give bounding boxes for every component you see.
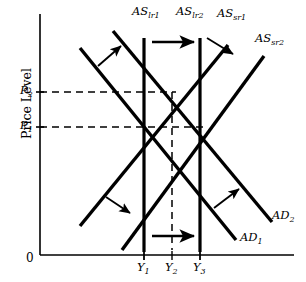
curve-ad1[interactable] — [80, 48, 236, 240]
shift-arrow-upper-left — [98, 46, 121, 66]
horizontal-shift-arrows — [152, 42, 194, 236]
x-tick-label-y1: Y1 — [137, 262, 150, 274]
origin-label: 0 — [26, 252, 34, 264]
label-as-sr1: ASsr1 — [217, 8, 246, 20]
x-tick-label-y3: Y3 — [193, 262, 206, 274]
label-ad2: AD2 — [272, 210, 295, 222]
label-as-lr1: ASlr1 — [132, 6, 160, 18]
shift-arrow-lower-left — [106, 197, 130, 213]
ad-as-diagram: ASlr1 ASlr2 ASsr1 ASsr2 AD1 AD2 P2 P1 Y1… — [0, 0, 306, 282]
shift-arrow-lower-right — [214, 189, 239, 208]
short-run-supply-curves — [80, 45, 264, 250]
label-as-lr2: ASlr2 — [176, 6, 204, 18]
axis-group — [40, 14, 294, 255]
label-as-sr2: ASsr2 — [255, 33, 284, 45]
demand-curves — [80, 31, 272, 240]
x-tick-label-y2: Y2 — [165, 262, 178, 274]
y-axis-title: Price Level — [19, 52, 34, 156]
label-ad1: AD1 — [240, 232, 263, 244]
